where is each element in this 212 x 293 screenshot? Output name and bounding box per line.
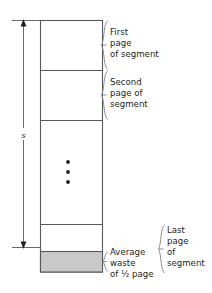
average-waste-label-line-1: Average — [110, 247, 145, 257]
annotation-average-waste: Average waste of ½ page — [103, 247, 154, 279]
last-page-label-line-1: Last — [167, 225, 186, 235]
second-page-label-line-2: page of — [110, 88, 143, 98]
average-waste-label-line-2: waste — [110, 258, 135, 268]
annotation-second-page: Second page of segment — [102, 71, 149, 120]
annotation-last-page: Last page of segment — [159, 225, 206, 273]
average-waste-label-line-3: of ½ page — [110, 269, 154, 279]
segment-column — [41, 21, 103, 273]
first-page-label-line-1: First — [110, 27, 129, 37]
segment-paging-figure: s First page of segment — [0, 0, 212, 293]
last-page-label-line-4: segment — [167, 258, 205, 268]
first-page-label-line-2: page — [110, 38, 131, 48]
figure-canvas: s First page of segment — [0, 0, 212, 293]
last-page-label-line-3: of — [167, 247, 176, 257]
second-page-label-line-1: Second — [110, 77, 142, 87]
first-page-label-line-3: of segment — [110, 49, 159, 59]
segment-size-label: s — [21, 131, 25, 140]
segment-outline — [41, 21, 103, 273]
second-page-label-line-3: segment — [110, 99, 148, 109]
last-page-label-line-2: page — [167, 236, 188, 246]
average-waste-block — [41, 252, 103, 273]
annotation-first-page: First page of segment — [102, 21, 160, 70]
